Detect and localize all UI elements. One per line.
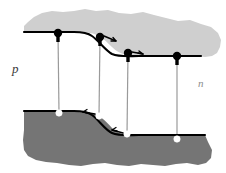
tie-line	[99, 37, 100, 116]
valence-band-fill	[23, 112, 212, 166]
p-region-label: p	[12, 62, 19, 75]
electron-stem	[175, 56, 178, 65]
tie-line	[58, 33, 59, 113]
tie-line	[127, 53, 128, 134]
hole-drift-arrow-head	[112, 128, 117, 132]
band-diagram-canvas	[0, 0, 226, 173]
band-diagram-figure: p n	[0, 0, 226, 173]
hole	[56, 110, 62, 116]
hole	[124, 131, 130, 137]
n-region-label: n	[198, 78, 204, 89]
hole	[96, 113, 102, 119]
electron-stem	[98, 37, 101, 46]
electron-stem	[126, 53, 129, 62]
electron-stem	[56, 33, 59, 42]
hole	[174, 136, 180, 142]
